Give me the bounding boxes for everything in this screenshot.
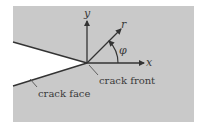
radius-label: r bbox=[121, 18, 127, 31]
y-axis-label: y bbox=[83, 7, 91, 20]
angle-label: φ bbox=[119, 44, 127, 57]
crack-front-label: crack front bbox=[99, 75, 155, 86]
crack-face-label: crack face bbox=[38, 88, 90, 99]
crack-tip-diagram: y x r φ crack front crack face bbox=[0, 0, 205, 128]
x-axis-label: x bbox=[146, 56, 153, 69]
